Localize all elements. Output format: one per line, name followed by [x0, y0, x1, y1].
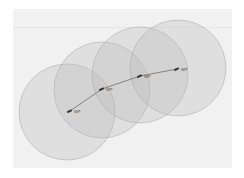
coverage-map[interactable]: WPWPWPWP: [0, 0, 244, 178]
waypoint-label: WP: [144, 74, 151, 79]
waypoint-label: WP: [106, 87, 113, 92]
coverage-circles: [19, 20, 226, 160]
waypoint-label: WP: [74, 109, 81, 114]
waypoint-label: WP: [181, 67, 188, 72]
